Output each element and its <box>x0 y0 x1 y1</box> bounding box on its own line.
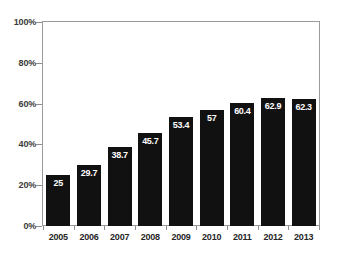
bar-slot: 62.3 <box>291 22 317 226</box>
bar-value-label: 25 <box>46 178 70 188</box>
bar: 57 <box>200 110 224 226</box>
bar-value-label: 38.7 <box>108 150 132 160</box>
x-tick-mark <box>135 226 136 230</box>
x-axis: 200520062007200820092010201120122013 <box>43 232 319 248</box>
bar: 53.4 <box>169 117 193 226</box>
bar-value-label: 29.7 <box>77 168 101 178</box>
y-tick-label: 20% <box>19 180 36 190</box>
x-tick-label: 2011 <box>227 232 257 242</box>
bar: 38.7 <box>108 147 132 226</box>
bar: 25 <box>46 175 70 226</box>
bar-slot: 45.7 <box>137 22 163 226</box>
x-tick-mark <box>258 226 259 230</box>
bar-slot: 29.7 <box>76 22 102 226</box>
x-tick-label: 2007 <box>105 232 135 242</box>
bar: 45.7 <box>138 133 162 226</box>
bar-value-label: 45.7 <box>138 136 162 146</box>
x-tick-mark <box>227 226 228 230</box>
y-tick-label: 40% <box>19 139 36 149</box>
bar: 29.7 <box>77 165 101 226</box>
bar-slot: 57 <box>199 22 225 226</box>
bar-value-label: 62.3 <box>292 102 316 112</box>
x-tick-label: 2013 <box>289 232 319 242</box>
bar-slot: 60.4 <box>229 22 255 226</box>
x-tick-mark <box>74 226 75 230</box>
x-tick-label: 2005 <box>43 232 73 242</box>
bar: 62.9 <box>261 98 285 226</box>
y-tick-label: 100% <box>14 17 36 27</box>
x-tick-mark <box>104 226 105 230</box>
x-tick-mark <box>288 226 289 230</box>
x-tick-mark <box>43 226 44 230</box>
x-tick-mark <box>196 226 197 230</box>
x-tick-label: 2009 <box>166 232 196 242</box>
x-tick-mark <box>319 226 320 230</box>
x-tick-label: 2010 <box>197 232 227 242</box>
bar-value-label: 53.4 <box>169 120 193 130</box>
x-tick-mark <box>166 226 167 230</box>
bar-slot: 62.9 <box>260 22 286 226</box>
bar: 62.3 <box>292 99 316 226</box>
bar-value-label: 62.9 <box>261 101 285 111</box>
bars-container: 2529.738.745.753.45760.462.962.3 <box>43 22 319 226</box>
bar-slot: 53.4 <box>168 22 194 226</box>
x-tick-label: 2008 <box>135 232 165 242</box>
bar-value-label: 60.4 <box>230 106 254 116</box>
y-tick-mark <box>36 226 42 227</box>
bar: 60.4 <box>230 103 254 226</box>
bar-chart: 0%20%40%60%80%100% 2529.738.745.753.4576… <box>0 0 339 266</box>
x-tick-label: 2006 <box>74 232 104 242</box>
bar-value-label: 57 <box>200 113 224 123</box>
y-axis: 0%20%40%60%80%100% <box>0 21 36 226</box>
bar-slot: 25 <box>45 22 71 226</box>
y-tick-label: 60% <box>19 99 36 109</box>
x-tick-label: 2012 <box>258 232 288 242</box>
y-tick-label: 0% <box>23 221 36 231</box>
y-tick-label: 80% <box>19 58 36 68</box>
x-axis-tick-marks <box>43 226 319 231</box>
bar-slot: 38.7 <box>107 22 133 226</box>
